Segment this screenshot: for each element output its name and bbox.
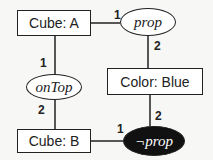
edge-label: 2 <box>38 103 45 117</box>
relation-prop: prop <box>120 8 176 36</box>
edge-label: 1 <box>40 56 47 70</box>
conceptual-graph: Cube: A prop onTop Color: Blue Cube: B ¬… <box>0 0 213 160</box>
concept-cube-a: Cube: A <box>17 10 91 36</box>
edge-label: 1 <box>114 8 121 22</box>
relation-ontop: onTop <box>26 74 82 100</box>
edge-label: 2 <box>155 109 162 123</box>
concept-cube-b: Cube: B <box>17 129 91 153</box>
edge-label: 1 <box>117 122 124 136</box>
concept-color-blue: Color: Blue <box>107 68 203 95</box>
edge-label: 2 <box>154 39 161 53</box>
relation-negated-prop: ¬prop <box>123 126 185 156</box>
